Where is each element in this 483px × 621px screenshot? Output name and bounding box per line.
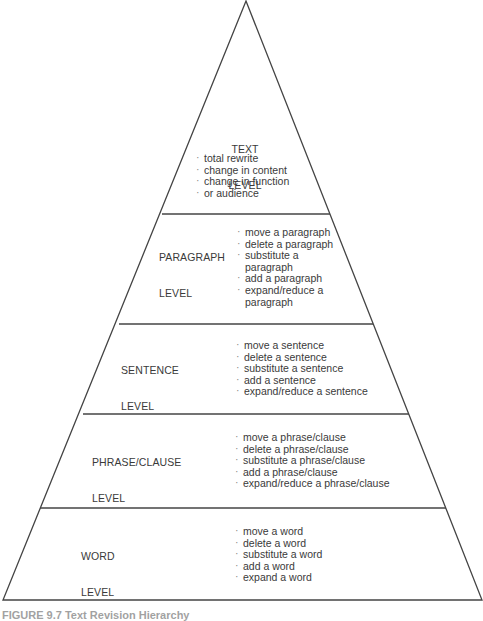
level-phrase-label: PHRASE/CLAUSE LEVEL	[92, 432, 181, 516]
list-item-continuation: paragraph	[237, 297, 333, 309]
level-sentence-label: SENTENCE LEVEL	[121, 340, 179, 424]
list-item: expand/reduce a phrase/clause	[235, 478, 390, 490]
level-sentence-items: move a sentence delete a sentence substi…	[236, 340, 368, 398]
level-sentence-subtitle: LEVEL	[121, 400, 179, 412]
list-item: total rewrite	[196, 153, 289, 165]
list-item: move a phrase/clause	[235, 432, 390, 444]
level-phrase-subtitle: LEVEL	[92, 492, 181, 504]
list-item: move a sentence	[236, 340, 368, 352]
level-text-items: total rewrite change in content change i…	[196, 153, 289, 199]
list-item: expand/reduce a sentence	[236, 386, 368, 398]
level-paragraph-label: PARAGRAPH LEVEL	[159, 227, 225, 311]
list-item: expand/reduce a	[237, 285, 333, 297]
level-phrase-title: PHRASE/CLAUSE	[92, 456, 181, 468]
level-paragraph-items: move a paragraph delete a paragraph subs…	[237, 227, 333, 308]
list-item: move a paragraph	[237, 227, 333, 239]
level-word-items: move a word delete a word substitute a w…	[235, 526, 322, 584]
list-item-continuation: or audience	[196, 188, 289, 200]
list-item: expand a word	[235, 572, 322, 584]
level-word-subtitle: LEVEL	[81, 586, 115, 598]
level-paragraph-subtitle: LEVEL	[159, 287, 225, 299]
continuation-text: or audience	[204, 187, 259, 199]
level-paragraph-title: PARAGRAPH	[159, 251, 225, 263]
list-item: move a word	[235, 526, 322, 538]
figure-caption: FIGURE 9.7 Text Revision Hierarchy	[2, 609, 189, 621]
level-sentence-title: SENTENCE	[121, 364, 179, 376]
list-item: substitute a	[237, 250, 333, 262]
level-word-label: WORD LEVEL	[81, 526, 115, 610]
level-phrase-items: move a phrase/clause delete a phrase/cla…	[235, 432, 390, 490]
level-word-title: WORD	[81, 550, 115, 562]
